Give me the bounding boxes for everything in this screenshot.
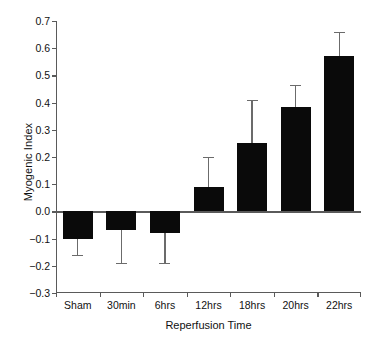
error-bar-cap [334,32,345,33]
y-tick-mark [52,211,56,212]
error-bar-stem [339,32,340,56]
y-tick-mark [52,48,56,49]
x-tick-label-12hrs: 12hrs [195,299,221,311]
y-tick-label: −0.3 [29,287,50,299]
y-tick-mark [52,266,56,267]
x-tick-label-18hrs: 18hrs [239,299,265,311]
error-bar-cap [290,85,301,86]
x-tick-mark [317,293,318,297]
y-tick-mark [52,184,56,185]
y-axis-label: Myogenic Index [22,82,34,242]
x-tick-label-22hrs: 22hrs [326,299,352,311]
bar [324,56,354,211]
bar [150,211,180,233]
bar [237,143,267,211]
y-tick-label: 0.1 [35,178,50,190]
y-tick-label: 0.7 [35,15,50,27]
x-tick-mark [100,293,101,297]
error-bar-cap [159,263,170,264]
error-bar-stem [121,230,122,263]
error-bar-stem [77,239,78,255]
error-bar-stem [251,100,252,144]
x-tick-label-sham: Sham [64,299,91,311]
x-tick-mark [274,293,275,297]
bar [63,211,93,238]
y-tick-mark [52,103,56,104]
x-tick-mark [230,293,231,297]
error-bar-cap [72,255,83,256]
y-tick-mark [52,21,56,22]
chart-figure: Myogenic Index 0.70.60.50.40.30.20.10.0−… [0,0,377,340]
error-bar-stem [208,157,209,187]
bar [106,211,136,230]
x-tick-mark [360,293,361,297]
x-tick-label-30min: 30min [107,299,136,311]
error-bar-stem [295,85,296,107]
y-tick-label: 0.0 [35,205,50,217]
x-axis-label: Reperfusion Time [56,319,361,331]
x-tick-mark [143,293,144,297]
error-bar-cap [203,157,214,158]
y-tick-mark [52,130,56,131]
y-axis-line [56,21,57,293]
y-tick-label: −0.2 [29,260,50,272]
bar [194,187,224,211]
plot-area: 0.70.60.50.40.30.20.10.0−0.1−0.2−0.3 Sha… [56,21,361,293]
error-bar-stem [164,233,165,263]
x-tick-mark [56,293,57,297]
bar [281,107,311,212]
y-tick-label: −0.1 [29,233,50,245]
x-axis-line [56,292,361,293]
error-bar-cap [116,263,127,264]
y-tick-mark [52,239,56,240]
y-tick-label: 0.2 [35,151,50,163]
error-bar-cap [247,100,258,101]
y-tick-label: 0.4 [35,97,50,109]
zero-baseline [56,211,361,212]
y-tick-mark [52,75,56,76]
x-tick-label-20hrs: 20hrs [283,299,309,311]
y-tick-mark [52,157,56,158]
x-tick-mark [187,293,188,297]
y-tick-label: 0.3 [35,124,50,136]
y-tick-label: 0.5 [35,69,50,81]
y-tick-label: 0.6 [35,42,50,54]
x-tick-label-6hrs: 6hrs [155,299,175,311]
